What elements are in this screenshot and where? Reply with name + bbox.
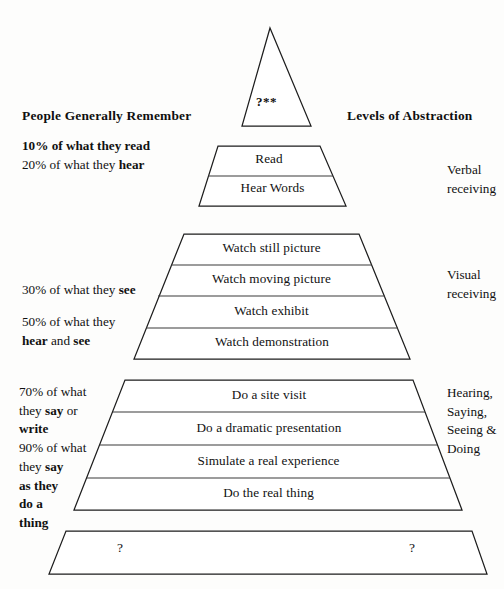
note-line: Doing <box>447 440 496 459</box>
bottom-question-left: ? <box>117 540 123 556</box>
apex-label: ?** <box>256 94 277 110</box>
note-line: Saying, <box>447 403 496 422</box>
heading-levels-of-abstraction: Levels of Abstraction <box>347 108 472 124</box>
note-text-run: or <box>63 403 77 418</box>
left-note-10-20: 10% of what they read20% of what they he… <box>22 137 150 174</box>
note-line: they say or <box>19 402 86 421</box>
note-line: write <box>19 420 86 439</box>
bottom-question-right: ? <box>409 540 415 556</box>
right-note-visual-receiving: Visualreceiving <box>447 266 496 303</box>
note-line: as they <box>19 477 86 496</box>
tier-label-watch-moving-picture: Watch moving picture <box>171 272 372 287</box>
note-text-run: thing <box>19 515 48 530</box>
note-text-run: 70% of what <box>19 384 86 399</box>
note-line: Seeing & <box>447 421 496 440</box>
tier-label-do-site-visit: Do a site visit <box>125 388 413 403</box>
note-line: do a <box>19 495 86 514</box>
left-note-70-90: 70% of whatthey say orwrite90% of whatth… <box>19 383 86 533</box>
tier-label-hear-words: Hear Words <box>199 181 346 196</box>
note-line: 20% of what they hear <box>22 156 150 175</box>
band-bottom-unknown <box>49 531 487 574</box>
note-text-run: see <box>73 333 90 348</box>
note-line: 90% of what <box>19 439 86 458</box>
note-text-run: 10% of what they read <box>22 138 150 153</box>
note-text-run: say <box>45 403 63 418</box>
tier-label-do-the-real-thing: Do the real thing <box>87 486 450 501</box>
note-text-run: say <box>45 459 63 474</box>
apex-triangle <box>242 28 311 126</box>
note-line: Hearing, <box>447 384 496 403</box>
note-line: 10% of what they read <box>22 137 150 156</box>
note-text-run: as they <box>19 478 58 493</box>
note-text-run: and <box>48 333 74 348</box>
note-line: receiving <box>447 180 496 199</box>
tier-label-watch-demonstration: Watch demonstration <box>146 335 398 350</box>
note-line: 50% of what they <box>22 313 115 332</box>
right-note-hearing-saying-seeing-doing: Hearing,Saying,Seeing &Doing <box>447 384 496 459</box>
heading-people-generally-remember: People Generally Remember <box>22 108 191 124</box>
tier-label-dramatic-presentation: Do a dramatic presentation <box>113 421 425 436</box>
note-text-run: hear <box>22 333 48 348</box>
tier-label-watch-exhibit: Watch exhibit <box>158 304 385 319</box>
note-line: they say <box>19 458 86 477</box>
diagram-canvas: People Generally Remember Levels of Abst… <box>0 0 504 589</box>
right-note-verbal-receiving: Verbalreceiving <box>447 161 496 198</box>
note-text-run: hear <box>119 157 145 172</box>
note-text-run: 20% of what they <box>22 157 119 172</box>
note-text-run: they <box>19 403 45 418</box>
tier-label-simulate-real-experience: Simulate a real experience <box>100 454 437 469</box>
note-line: 30% of what they see <box>22 281 136 300</box>
note-text-run: 30% of what they <box>22 282 119 297</box>
note-line: Visual <box>447 266 496 285</box>
note-text-run: 50% of what they <box>22 314 115 329</box>
note-line: receiving <box>447 285 496 304</box>
note-text-run: they <box>19 459 45 474</box>
note-text-run: write <box>19 421 48 436</box>
note-line: thing <box>19 514 86 533</box>
left-note-50: 50% of what theyhear and see <box>22 313 115 350</box>
left-note-30: 30% of what they see <box>22 281 136 300</box>
note-text-run: see <box>119 282 136 297</box>
note-line: hear and see <box>22 332 115 351</box>
tier-label-read: Read <box>218 152 320 167</box>
note-line: 70% of what <box>19 383 86 402</box>
note-line: Verbal <box>447 161 496 180</box>
note-text-run: 90% of what <box>19 440 86 455</box>
note-text-run: do a <box>19 496 43 511</box>
tier-label-watch-still-picture: Watch still picture <box>184 241 359 256</box>
